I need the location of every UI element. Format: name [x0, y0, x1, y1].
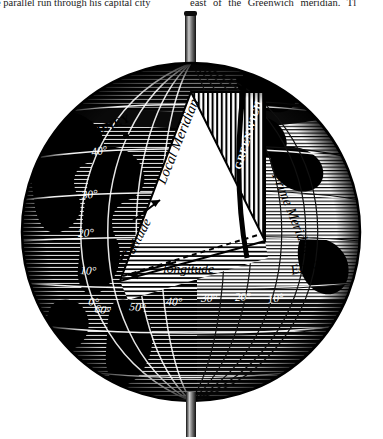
longitude-tick-50: 50° — [129, 300, 147, 314]
longitude-tick-40: 40° — [166, 295, 183, 308]
latitude-tick-20: 20° — [78, 226, 95, 239]
longitude-tick-10: 10° — [267, 291, 285, 305]
latitude-tick-30: 30° — [80, 187, 99, 201]
latitude-tick-10: 10° — [80, 264, 97, 277]
label-longitude: longitude — [163, 261, 214, 276]
globe-illustration: SYDNEY 40° 30° 20° 10° 0° 60° 50° 40° 30… — [0, 0, 383, 439]
figure-globe-coordinates: e parallel run through his capital city … — [0, 0, 383, 439]
globe-axis-pin-bottom — [186, 392, 196, 437]
longitude-tick-20: 20° — [234, 290, 251, 303]
longitude-tick-30: 30° — [200, 292, 218, 304]
globe-sphere — [0, 0, 383, 439]
